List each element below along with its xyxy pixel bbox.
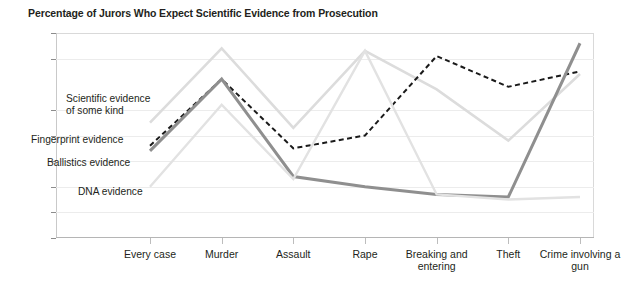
x-tick-mark xyxy=(293,238,294,244)
series-label-ballistics-evidence: Ballistics evidence xyxy=(47,157,130,169)
y-tick-mark xyxy=(51,238,56,239)
plot-area xyxy=(56,33,594,238)
series-line-ballistics-evidence xyxy=(150,43,580,197)
series-line-dna-evidence xyxy=(150,51,580,200)
x-tick-mark xyxy=(580,238,581,244)
x-tick-mark xyxy=(365,238,366,244)
x-tick-mark xyxy=(150,238,151,244)
x-tick-mark xyxy=(437,238,438,244)
series-lines xyxy=(56,33,594,238)
x-tick-mark xyxy=(508,238,509,244)
series-line-scientific-evidence-of-some-kind xyxy=(150,48,580,140)
x-tick-mark xyxy=(222,238,223,244)
series-label-dna-evidence: DNA evidence xyxy=(78,186,143,198)
x-tick-label: Crime involving a gun xyxy=(534,249,625,273)
series-label-scientific-evidence: Scientific evidence of some kind xyxy=(66,93,150,116)
chart-title: Percentage of Jurors Who Expect Scientif… xyxy=(28,7,378,19)
series-label-fingerprint-evidence: Fingerprint evidence xyxy=(31,134,123,146)
